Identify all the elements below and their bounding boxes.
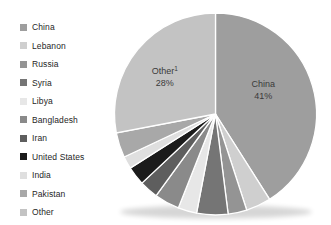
pie-chart: China41%Other128%: [0, 0, 331, 225]
pie-chart-figure: ChinaLebanonRussiaSyriaLibyaBangladeshIr…: [0, 0, 331, 225]
